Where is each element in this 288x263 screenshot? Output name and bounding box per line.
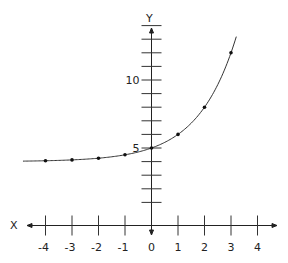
x-axis-arrow-right-icon [272, 224, 277, 228]
data-point [44, 159, 48, 163]
x-tick-label: 1 [175, 241, 182, 254]
exponential-chart: -4-3-2-101234510 X Y [0, 0, 288, 263]
x-tick-label: -2 [91, 241, 102, 254]
x-tick-label: 3 [228, 241, 235, 254]
data-point [123, 153, 127, 157]
data-point [97, 156, 101, 160]
y-axis-arrow-down-icon [150, 230, 154, 235]
x-tick-label: 0 [148, 241, 155, 254]
data-point [176, 133, 180, 137]
data-point [70, 158, 74, 162]
y-axis-arrow-up-icon [150, 28, 154, 33]
x-axis-label: X [10, 219, 18, 232]
axes [27, 28, 277, 235]
x-tick-label: 2 [201, 241, 208, 254]
x-tick-label: -1 [118, 241, 129, 254]
x-axis-arrow-left-icon [27, 224, 32, 228]
data-point [229, 51, 233, 55]
y-tick-label: 5 [133, 142, 140, 155]
x-tick-label: -4 [38, 241, 49, 254]
x-tick-label: -3 [65, 241, 76, 254]
tick-labels: -4-3-2-101234510 [38, 74, 261, 254]
y-tick-label: 10 [126, 74, 140, 87]
data-point [150, 146, 154, 150]
x-tick-label: 4 [254, 241, 261, 254]
y-axis-label: Y [145, 12, 153, 25]
function-curve [23, 37, 236, 162]
data-point [203, 105, 207, 109]
